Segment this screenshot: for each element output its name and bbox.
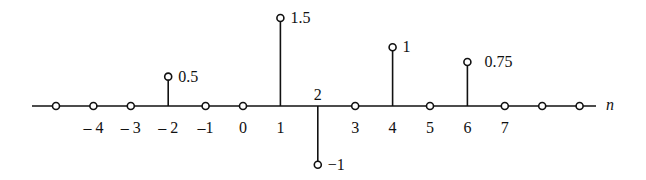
sample-marker [576, 103, 583, 110]
stem-plot: – 4– 3– 2–101234567 0.51.5−110.75 n [0, 0, 646, 180]
tick-label: – 4 [82, 119, 103, 136]
value-label: 0.5 [178, 68, 198, 85]
sample-marker [501, 103, 508, 110]
value-label: 1 [403, 38, 411, 55]
value-label: 0.75 [484, 53, 512, 70]
tick-label: 6 [463, 119, 471, 136]
tick-label: – 2 [157, 119, 178, 136]
tick-label: 0 [239, 119, 247, 136]
value-label: 1.5 [290, 9, 310, 26]
sample-marker [389, 44, 396, 51]
sample-marker [90, 103, 97, 110]
axis-label-n: n [606, 96, 614, 113]
tick-label: –1 [197, 119, 214, 136]
tick-label: 1 [276, 119, 284, 136]
sample-marker [314, 161, 321, 168]
tick-labels: – 4– 3– 2–101234567 [82, 86, 508, 136]
sample-marker [427, 103, 434, 110]
sample-marker [202, 103, 209, 110]
value-label: −1 [328, 156, 345, 173]
tick-label: 3 [351, 119, 359, 136]
sample-marker [240, 103, 247, 110]
sample-marker [53, 103, 60, 110]
tick-label: 5 [426, 119, 434, 136]
sample-marker [127, 103, 134, 110]
tick-label: 2 [314, 86, 322, 103]
sample-marker [464, 58, 471, 65]
tick-label: 4 [389, 119, 397, 136]
tick-label: 7 [501, 119, 509, 136]
sample-marker [277, 14, 284, 21]
tick-label: – 3 [120, 119, 141, 136]
sample-marker [352, 103, 359, 110]
sample-marker [539, 103, 546, 110]
sample-marker [165, 73, 172, 80]
value-labels: 0.51.5−110.75 [178, 9, 512, 173]
